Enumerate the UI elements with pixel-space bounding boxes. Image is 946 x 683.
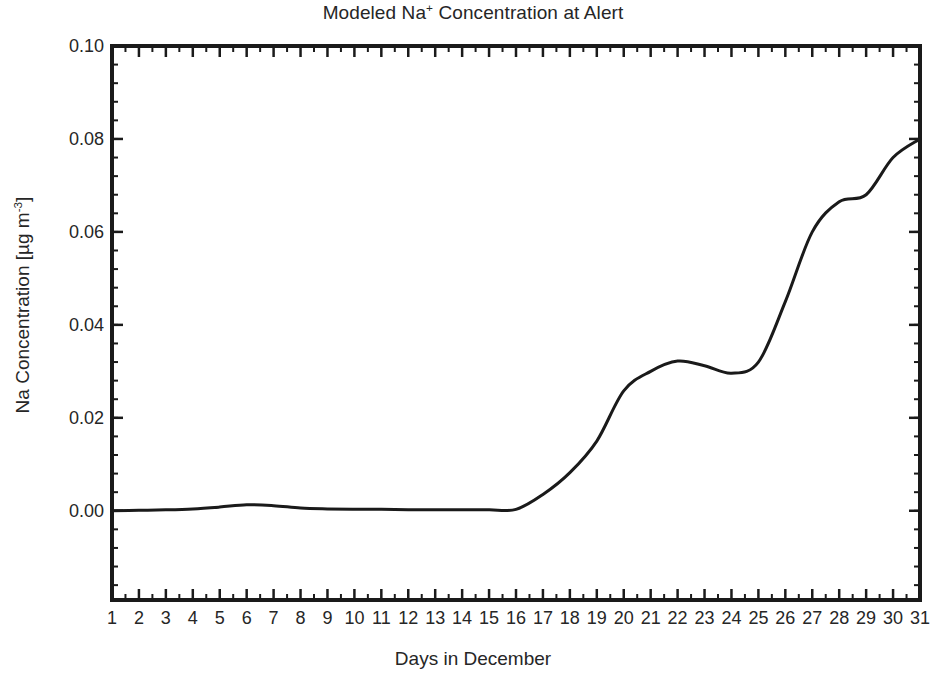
y-tick-label: 0.04 bbox=[38, 314, 104, 335]
x-tick-label: 19 bbox=[587, 608, 607, 629]
x-tick-label: 3 bbox=[161, 608, 171, 629]
x-tick-label: 5 bbox=[215, 608, 225, 629]
chart-title: Modeled Na+ Concentration at Alert bbox=[0, 2, 946, 24]
x-tick-label: 17 bbox=[533, 608, 553, 629]
x-tick-label: 8 bbox=[296, 608, 306, 629]
x-tick-label: 30 bbox=[883, 608, 903, 629]
chart-title-main: Modeled Na bbox=[323, 2, 426, 23]
chart-title-rest: Concentration at Alert bbox=[433, 2, 623, 23]
plot-area bbox=[0, 0, 946, 683]
y-tick-label: 0.00 bbox=[38, 500, 104, 521]
x-tick-label: 9 bbox=[322, 608, 332, 629]
y-tick-label: 0.06 bbox=[38, 221, 104, 242]
x-tick-label: 22 bbox=[668, 608, 688, 629]
x-tick-label: 27 bbox=[802, 608, 822, 629]
x-tick-label: 31 bbox=[910, 608, 930, 629]
plot-frame bbox=[112, 46, 920, 600]
x-tick-label: 12 bbox=[398, 608, 418, 629]
x-tick-label: 23 bbox=[695, 608, 715, 629]
x-tick-label: 11 bbox=[372, 608, 391, 629]
y-tick-label: 0.10 bbox=[38, 36, 104, 57]
x-tick-label: 18 bbox=[560, 608, 580, 629]
x-tick-label: 13 bbox=[425, 608, 445, 629]
x-tick-label: 28 bbox=[829, 608, 849, 629]
y-axis-label-superscript: -3 bbox=[11, 202, 24, 212]
x-tick-label: 4 bbox=[188, 608, 198, 629]
y-axis-label-tail: ] bbox=[12, 197, 33, 202]
x-tick-label: 29 bbox=[856, 608, 876, 629]
y-axis-label-main: Na Concentration [µg m bbox=[12, 212, 33, 413]
x-tick-label: 6 bbox=[242, 608, 252, 629]
x-tick-label: 10 bbox=[344, 608, 364, 629]
y-tick-label: 0.02 bbox=[38, 407, 104, 428]
x-tick-label: 24 bbox=[721, 608, 741, 629]
x-axis-label: Days in December bbox=[0, 648, 946, 670]
x-tick-label: 21 bbox=[641, 608, 661, 629]
x-tick-label: 1 bbox=[107, 608, 117, 629]
x-tick-label: 16 bbox=[506, 608, 526, 629]
x-tick-label: 26 bbox=[775, 608, 795, 629]
x-tick-label: 20 bbox=[614, 608, 634, 629]
chart-title-superscript: + bbox=[426, 1, 433, 14]
x-tick-label: 25 bbox=[748, 608, 768, 629]
y-tick-label: 0.08 bbox=[38, 128, 104, 149]
x-tick-label: 14 bbox=[452, 608, 472, 629]
x-tick-label: 7 bbox=[269, 608, 279, 629]
x-tick-label: 15 bbox=[479, 608, 499, 629]
x-tick-label: 2 bbox=[134, 608, 144, 629]
chart-figure: Modeled Na+ Concentration at Alert Na Co… bbox=[0, 0, 946, 683]
